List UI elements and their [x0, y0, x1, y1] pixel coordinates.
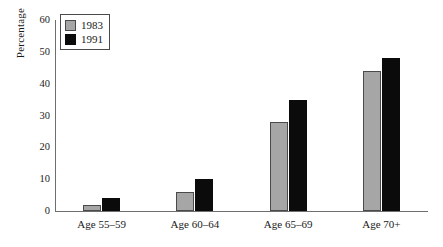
bar-group — [176, 20, 213, 211]
x-tick-label: Age 55–59 — [77, 219, 126, 230]
y-tick-label: 40 — [40, 78, 51, 89]
plot-area: 0102030405060 Age 55–59Age 60–64Age 65–6… — [55, 20, 428, 211]
legend: 1983 1991 — [60, 14, 110, 50]
bar-chart: Percentage 0102030405060 Age 55–59Age 60… — [0, 0, 443, 247]
bar-1991-age-60–64 — [195, 179, 213, 211]
bar-1983-age-70+ — [363, 71, 381, 211]
x-axis-line — [55, 211, 428, 212]
legend-label-1983: 1983 — [81, 20, 103, 31]
x-tick-label: Age 60–64 — [171, 219, 220, 230]
bar-1991-age-55–59 — [102, 198, 120, 211]
legend-label-1991: 1991 — [81, 34, 103, 45]
bar-group — [270, 20, 307, 211]
bar-1991-age-65–69 — [289, 100, 307, 211]
bar-1983-age-55–59 — [83, 205, 101, 211]
bar-group — [363, 20, 400, 211]
y-tick-label: 10 — [40, 174, 51, 185]
legend-swatch-1983-icon — [65, 20, 76, 31]
bar-1983-age-65–69 — [270, 122, 288, 211]
x-tick-label: Age 70+ — [362, 219, 400, 230]
y-tick-label: 0 — [45, 206, 50, 217]
x-tick-label: Age 65–69 — [264, 219, 313, 230]
legend-swatch-1991-icon — [65, 34, 76, 45]
bar-1991-age-70+ — [382, 58, 400, 211]
legend-item-1983: 1983 — [65, 18, 103, 32]
bar-1983-age-60–64 — [176, 192, 194, 211]
y-tick-label: 30 — [40, 110, 51, 121]
y-tick-label: 50 — [40, 47, 51, 58]
legend-item-1991: 1991 — [65, 32, 103, 46]
bars-layer — [55, 20, 428, 211]
y-axis-title: Percentage — [14, 0, 30, 78]
y-tick-label: 60 — [40, 15, 51, 26]
y-tick-label: 20 — [40, 142, 51, 153]
